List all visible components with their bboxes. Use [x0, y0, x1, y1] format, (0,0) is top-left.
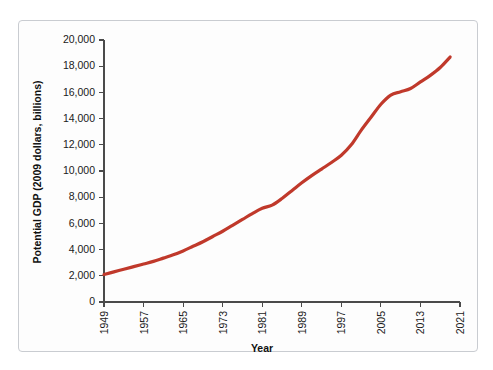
- x-axis-tick-label: 2013: [414, 311, 426, 335]
- y-axis-tick-label: 16,000: [63, 86, 95, 98]
- x-axis-tick-label: 2005: [375, 311, 387, 335]
- potential-gdp-series-line: [104, 57, 450, 274]
- y-axis-tick-label: 18,000: [63, 59, 95, 71]
- y-axis-title: Potential GDP (2009 dollars, billions): [31, 80, 43, 263]
- y-axis-tick-label: 12,000: [63, 138, 95, 150]
- y-axis-tick-marks: [99, 40, 104, 302]
- x-axis-tick-label: 1957: [138, 311, 150, 335]
- y-axis-tick-label: 0: [89, 295, 95, 307]
- y-axis-tick-label: 14,000: [63, 112, 95, 124]
- y-axis-tick-label: 8,000: [69, 190, 95, 202]
- y-axis-tick-label: 4,000: [69, 243, 95, 255]
- line-chart: 02,0004,0006,0008,00010,00012,00014,0001…: [0, 0, 493, 370]
- x-axis-tick-label: 2021: [454, 311, 466, 335]
- x-axis-title: Year: [251, 342, 273, 354]
- y-axis-tick-label: 2,000: [69, 269, 95, 281]
- x-axis-tick-label: 1989: [296, 311, 308, 335]
- x-axis-tick-labels: 1949195719651973198119891997200520132021: [98, 311, 466, 335]
- x-axis-tick-label: 1965: [177, 311, 189, 335]
- x-axis-tick-marks: [104, 302, 460, 307]
- y-axis-tick-labels: 02,0004,0006,0008,00010,00012,00014,0001…: [63, 33, 95, 307]
- x-axis-tick-label: 1997: [335, 311, 347, 335]
- x-axis-tick-label: 1973: [217, 311, 229, 335]
- y-axis-tick-label: 20,000: [63, 33, 95, 45]
- y-axis-tick-label: 10,000: [63, 164, 95, 176]
- x-axis-tick-label: 1981: [256, 311, 268, 335]
- y-axis-tick-label: 6,000: [69, 217, 95, 229]
- x-axis-tick-label: 1949: [98, 311, 110, 335]
